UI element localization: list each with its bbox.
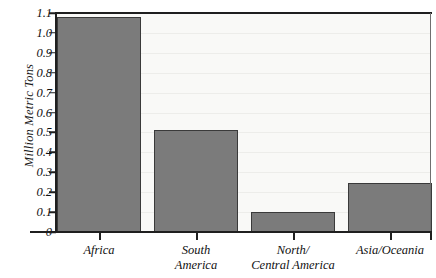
y-tick-mark	[49, 112, 56, 114]
y-tick-mark	[49, 132, 56, 134]
x-tick-label-line: Africa	[83, 243, 114, 257]
x-tick-label: Asia/Oceania	[326, 243, 436, 258]
x-tick-mark-end	[430, 232, 432, 240]
x-tick-mark	[99, 232, 101, 240]
y-tick-mark	[49, 191, 56, 193]
y-tick-mark	[49, 152, 56, 154]
bar	[348, 183, 432, 232]
x-tick-label-line: South	[182, 243, 210, 257]
y-tick-mark	[49, 231, 56, 233]
x-tick-mark	[390, 232, 392, 240]
x-tick-label-line: Asia/Oceania	[356, 243, 424, 257]
x-tick-label-line: North/	[277, 243, 310, 257]
x-tick-mark	[196, 232, 198, 240]
plot-top-border	[56, 12, 432, 14]
bar-chart: Million Metric Tons 00.10.20.30.40.50.60…	[0, 0, 436, 278]
y-tick-mark	[49, 92, 56, 94]
y-axis-line	[55, 12, 57, 233]
bar	[251, 212, 335, 232]
y-tick-mark	[49, 12, 56, 14]
x-tick-mark	[293, 232, 295, 240]
x-axis-line	[30, 231, 432, 233]
y-tick-mark	[49, 32, 56, 34]
y-tick-mark	[49, 72, 56, 74]
y-axis-tick-labels: 00.10.20.30.40.50.60.70.80.91.01.1	[18, 13, 52, 232]
y-tick-mark	[49, 211, 56, 213]
y-tick-mark	[49, 52, 56, 54]
plot-area	[56, 13, 431, 232]
y-tick-mark	[49, 172, 56, 174]
plot-right-border	[430, 13, 431, 232]
x-tick-label-line: Central America	[229, 258, 357, 273]
bar	[57, 17, 141, 232]
bar	[154, 130, 238, 232]
